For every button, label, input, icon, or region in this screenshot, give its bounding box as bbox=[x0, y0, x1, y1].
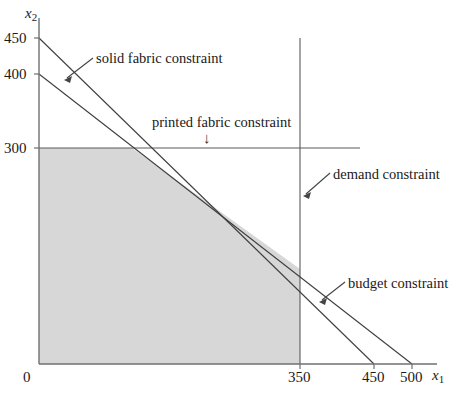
y-axis-label-text: x bbox=[25, 5, 32, 21]
x-tick-label-0: 0 bbox=[23, 370, 31, 385]
x-axis-label-text: x bbox=[432, 367, 439, 383]
solid-fabric-constraint-arrow bbox=[64, 58, 93, 83]
x-tick-label-500: 500 bbox=[400, 370, 423, 385]
plot-canvas bbox=[0, 0, 459, 396]
constraint-plot-figure: x2 x1 450 400 300 0 350 450 500 solid fa… bbox=[0, 0, 459, 396]
demand-constraint-arrow bbox=[303, 173, 330, 199]
x-tick-label-450: 450 bbox=[362, 370, 385, 385]
demand-constraint-label: demand constraint bbox=[333, 167, 440, 182]
y-tick-label-450: 450 bbox=[4, 31, 27, 46]
y-axis-label: x2 bbox=[25, 6, 37, 23]
x-axis-label: x1 bbox=[432, 368, 444, 385]
x-axis-label-subscript: 1 bbox=[439, 373, 445, 385]
y-axis-label-subscript: 2 bbox=[32, 11, 38, 23]
printed-fabric-constraint-label: printed fabric constraint bbox=[152, 115, 291, 130]
budget-constraint-label: budget constraint bbox=[348, 276, 448, 291]
y-tick-label-400: 400 bbox=[4, 67, 27, 82]
x-tick-label-350: 350 bbox=[288, 370, 311, 385]
solid-fabric-constraint-label: solid fabric constraint bbox=[96, 51, 222, 66]
printed-fabric-constraint-down-arrow: ↓ bbox=[203, 131, 211, 146]
y-tick-label-300: 300 bbox=[4, 141, 27, 156]
feasible-region-shading bbox=[39, 148, 300, 364]
